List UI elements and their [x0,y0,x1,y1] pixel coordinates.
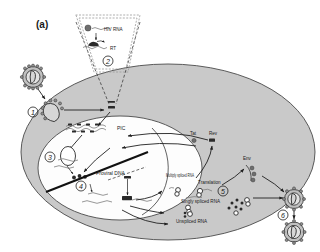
step-marker-6: 6 [281,212,285,219]
budding-virion [283,187,306,211]
virion-attachment-arrow [38,89,45,99]
inset-hiv-rna-label: HIV RNA [104,27,124,32]
rt-enzyme [88,42,99,47]
diagram-canvas: HIV RNA RT 2 [0,0,320,252]
rev-protein [209,139,215,142]
tat-label: Tat [190,131,197,136]
free-virion [20,64,45,90]
env-label: Env [243,156,252,161]
inset-rt-label: RT [110,46,116,51]
singly-spliced-rna-label: Singly spliced RNA [181,199,221,204]
hiv-replication-cycle-figure: HIV RNA RT 2 [0,0,320,252]
unspliced-rna-label: Unspliced RNA [176,219,208,224]
step-marker-3: 3 [48,154,52,161]
mature-virion [282,220,306,245]
tat-protein [192,138,196,142]
step-marker-5: 5 [221,188,225,195]
nuclear-pore [61,147,76,166]
cell-nucleus [38,116,202,220]
step-marker-1: 1 [31,109,35,116]
panel-label: (a) [36,19,48,30]
translation-label: Translation [198,180,221,185]
rev-label: Rev [209,131,218,136]
rna-cap-blob [85,25,91,31]
env-subunit-2 [252,172,256,176]
proviral-dna-label: Proviral DNA [96,170,126,176]
env-subunit-3 [251,178,255,182]
pic-label: PIC [117,125,126,131]
step-marker-4: 4 [79,183,83,190]
multiply-spliced-rna-label-line1: Multiply spliced RNA [166,173,195,178]
step-marker-2: 2 [105,58,110,65]
env-subunit-1 [250,166,254,170]
rt-direction-arrow [97,41,105,42]
